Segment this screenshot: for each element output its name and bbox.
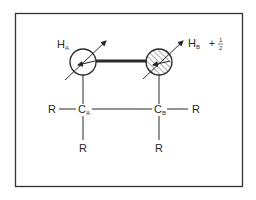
diagram-canvas: HA HB + 1 2 CA CB R R R R (0, 0, 256, 200)
spin-sign: + (209, 38, 215, 49)
atom-h-b (143, 41, 183, 79)
label-c-a: CA (78, 103, 90, 116)
label-r-bottom-a: R (79, 142, 87, 154)
spin-denominator: 2 (219, 45, 223, 51)
label-r-left: R (48, 103, 56, 115)
label-c-b: CB (154, 103, 166, 116)
label-h-b: HB (188, 37, 200, 50)
spin-numerator: 1 (219, 37, 223, 43)
label-h-a: HA (57, 38, 69, 51)
label-r-right: R (192, 103, 200, 115)
label-r-bottom-b: R (155, 142, 163, 154)
spin-annotation: + 1 2 (209, 37, 223, 51)
